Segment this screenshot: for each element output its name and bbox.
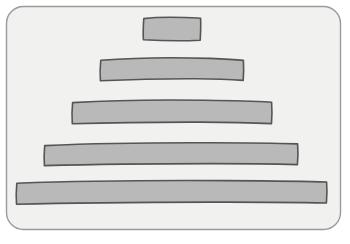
diagram-bar: bar-2 — [100, 58, 244, 81]
diagram-bar: bar-5 — [16, 181, 327, 205]
diagram-bar: bar-3 — [72, 100, 272, 124]
pyramid-bars-diagram: Stacked horizontal bars pyramid diagram … — [0, 0, 350, 244]
diagram-bar: bar-4 — [44, 143, 298, 166]
diagram-canvas: Stacked horizontal bars pyramid diagram … — [0, 0, 350, 244]
diagram-bar: bar-1 — [143, 18, 201, 41]
